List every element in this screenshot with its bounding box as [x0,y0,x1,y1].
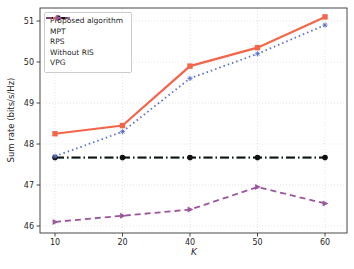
y-axis-label: Sum rate (bits/s/Hz) [6,78,16,163]
y-tick-label: 48 [24,140,34,149]
legend-label: RPS [50,37,65,47]
legend-label: VPG [50,58,65,68]
y-tick-label: 46 [24,222,34,231]
data-point-circle [255,155,261,161]
data-point-square [187,63,192,68]
data-point-triangle [188,207,194,213]
legend-item-rps: RPS [50,37,123,48]
data-point-square [120,123,125,128]
legend-label: Without RIS [50,48,94,58]
data-point-square [322,14,327,19]
legend: Proposed algorithm MPT RPS Without RIS [44,12,132,73]
data-point-star [187,76,192,81]
data-point-triangle [255,184,261,190]
legend-item-without-ris: Without RIS [50,48,123,59]
data-point-circle [187,155,193,161]
x-tick-label: 40 [185,238,195,247]
figure: 4647484950511020405060 Sum rate (bits/s/… [0,0,354,269]
x-axis-label: K [191,247,197,257]
data-point-star [255,51,260,56]
x-tick-label: 60 [320,238,330,247]
x-tick-label: 10 [50,238,60,247]
legend-item-vpg: VPG [50,58,123,69]
data-point-square [52,131,57,136]
data-point-circle [120,155,126,161]
x-tick-label: 50 [252,238,262,247]
data-point-star [322,23,327,28]
legend-label: MPT [50,27,66,37]
y-tick-label: 47 [24,181,34,190]
legend-sample-dashed-line-triangle-icon [45,13,71,23]
x-tick-label: 20 [117,238,127,247]
y-tick-label: 50 [24,58,34,67]
legend-item-mpt: MPT [50,27,123,38]
y-tick-label: 49 [24,99,34,108]
data-point-triangle [120,213,126,219]
series-line-vpg [55,187,325,222]
data-point-triangle [53,219,59,225]
data-point-triangle [323,200,329,206]
data-point-star [120,129,125,134]
data-point-star [52,154,57,159]
data-point-square [255,45,260,50]
y-tick-label: 51 [24,17,34,26]
data-point-circle [322,155,328,161]
